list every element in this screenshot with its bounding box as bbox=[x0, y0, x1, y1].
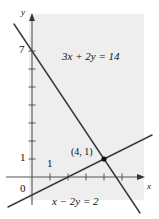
x-axis-arrow bbox=[137, 174, 145, 180]
intersection-point-dot bbox=[101, 156, 106, 161]
equation-label-1: 3x + 2y = 14 bbox=[62, 51, 120, 62]
x-axis-label: x bbox=[147, 182, 151, 191]
y-tick-label-1: 1 bbox=[20, 152, 26, 163]
intersection-point-label: (4, 1) bbox=[71, 147, 93, 157]
origin-label: 0 bbox=[20, 183, 26, 194]
graph-figure: y x 7 1 0 1 3x + 2y = 14 x − 2y = 2 (4, … bbox=[0, 0, 159, 219]
y-axis-arrow bbox=[29, 13, 35, 21]
y-axis-label: y bbox=[21, 8, 25, 17]
equation-label-2: x − 2y = 2 bbox=[52, 196, 99, 207]
x-tick-label-1: 1 bbox=[47, 158, 53, 169]
y-tick-label-7: 7 bbox=[19, 44, 25, 55]
